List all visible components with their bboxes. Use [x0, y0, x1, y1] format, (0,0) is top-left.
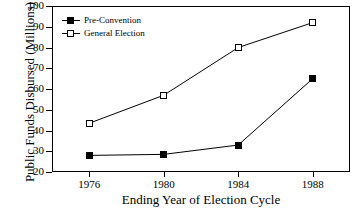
data-point-marker	[160, 151, 167, 158]
data-point-marker	[235, 44, 242, 51]
open-square-icon	[62, 29, 80, 38]
legend-item: General Election	[62, 28, 145, 39]
data-point-marker	[309, 19, 316, 26]
chart-legend: Pre-ConventionGeneral Election	[62, 15, 145, 41]
filled-square-icon	[62, 16, 80, 25]
series-line	[89, 79, 313, 156]
data-point-marker	[160, 92, 167, 99]
data-point-marker	[86, 152, 93, 159]
chart-container: Public Funds Disbursed (Millions) 203040…	[0, 0, 358, 218]
data-point-marker	[309, 75, 316, 82]
x-axis-title: Ending Year of Election Cycle	[52, 192, 350, 208]
series-lines	[0, 0, 358, 218]
legend-label: General Election	[84, 29, 145, 38]
legend-item: Pre-Convention	[62, 15, 145, 26]
data-point-marker	[86, 120, 93, 127]
legend-label: Pre-Convention	[84, 16, 141, 25]
data-point-marker	[235, 142, 242, 149]
